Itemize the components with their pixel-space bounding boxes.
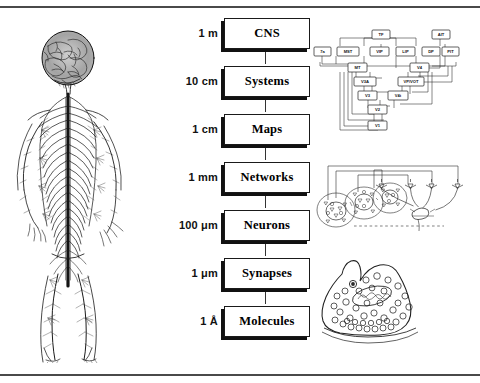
level-row-systems: 10 cm Systems [160, 64, 310, 98]
level-box-label-molecules: Molecules [239, 314, 294, 329]
svg-text:V1: V1 [375, 123, 381, 128]
level-row-networks: 1 mm Networks [160, 160, 310, 194]
svg-text:V3A: V3A [361, 79, 369, 84]
neural-network-circuit [312, 158, 474, 244]
scale-label-cns: 1 m [160, 16, 218, 50]
svg-text:LIP: LIP [402, 49, 409, 54]
level-row-molecules: 1 Å Molecules [160, 304, 310, 338]
svg-text:V4t: V4t [395, 93, 402, 98]
scale-label-networks: 1 mm [160, 160, 218, 194]
top-rule [0, 6, 480, 8]
svg-text:MT: MT [355, 65, 361, 70]
svg-text:DP: DP [428, 49, 434, 54]
svg-text:7a: 7a [320, 49, 325, 54]
svg-text:VIP: VIP [376, 49, 383, 54]
scale-label-molecules: 1 Å [160, 304, 218, 338]
level-row-neurons: 100 μm Neurons [160, 208, 310, 242]
level-box-label-maps: Maps [252, 122, 283, 137]
level-row-synapses: 1 μm Synapses [160, 256, 310, 290]
svg-text:MST: MST [344, 49, 353, 54]
svg-text:V4: V4 [417, 65, 423, 70]
synaptic-bouton-illustration [312, 258, 474, 362]
scale-label-neurons: 100 μm [160, 208, 218, 242]
level-box-synapses[interactable]: Synapses [224, 258, 310, 289]
cortical-hierarchy-diagram: TF AIT 7a MST VIP LIP DP PIT MT V4 V3A V… [312, 16, 474, 136]
level-box-label-cns: CNS [254, 26, 280, 41]
human-nervous-system-engraving [8, 18, 160, 363]
svg-text:AIT: AIT [438, 32, 445, 37]
svg-text:V3: V3 [365, 93, 371, 98]
figure-frame: 1 m CNS 10 cm Systems 1 cm Maps 1 mm Net… [0, 0, 480, 383]
bottom-rule [0, 374, 480, 376]
level-box-maps[interactable]: Maps [224, 114, 310, 145]
level-box-cns[interactable]: CNS [224, 18, 310, 49]
svg-text:V2: V2 [375, 107, 381, 112]
svg-text:VP/VOT: VP/VOT [403, 79, 419, 84]
level-box-neurons[interactable]: Neurons [224, 210, 310, 241]
level-box-label-networks: Networks [241, 170, 294, 185]
level-box-molecules[interactable]: Molecules [224, 306, 310, 337]
level-box-label-systems: Systems [245, 74, 289, 89]
level-box-label-neurons: Neurons [244, 218, 290, 233]
levels-ladder: 1 m CNS 10 cm Systems 1 cm Maps 1 mm Net… [160, 16, 310, 368]
level-box-systems[interactable]: Systems [224, 66, 310, 97]
scale-label-systems: 10 cm [160, 64, 218, 98]
level-box-networks[interactable]: Networks [224, 162, 310, 193]
scale-label-maps: 1 cm [160, 112, 218, 146]
svg-text:PIT: PIT [447, 49, 454, 54]
svg-text:TF: TF [378, 32, 384, 37]
level-row-cns: 1 m CNS [160, 16, 310, 50]
level-box-label-synapses: Synapses [242, 266, 292, 281]
scale-label-synapses: 1 μm [160, 256, 218, 290]
level-row-maps: 1 cm Maps [160, 112, 310, 146]
